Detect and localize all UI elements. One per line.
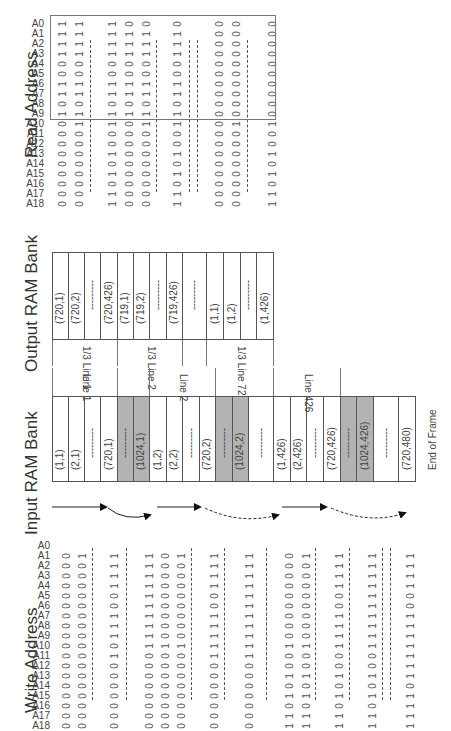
address-bit: 0 [245,721,255,731]
address-bit: 0 [62,641,72,651]
address-bit: 1 [335,721,345,731]
address-bit: 1 [145,561,155,571]
address-bit: 0 [177,651,187,661]
address-bit: 1 [368,671,378,681]
address-bit: 1 [245,631,255,641]
address-bit: 0 [245,681,255,691]
address-bit: 0 [335,601,345,611]
address-bit: 1 [335,571,345,581]
address-bit: 1 [406,571,416,581]
address-bit: 0 [62,711,72,721]
address-bit: 1 [368,551,378,561]
address-bit: 0 [285,651,295,661]
address-bit: 0 [210,681,220,691]
address-bit: 0 [335,591,345,601]
address-bit: 0 [302,591,312,601]
address-bit: 0 [368,701,378,711]
address-bit: 0 [177,601,187,611]
address-bit: 1 [210,581,220,591]
address-bit: 1 [406,691,416,701]
address-bit: 0 [145,681,155,691]
address-bit: 0 [302,581,312,591]
address-bit: 1 [406,641,416,651]
address-bit: 1 [177,641,187,651]
address-bit: 1 [368,591,378,601]
address-bit: 0 [302,561,312,571]
address-bit: 0 [110,701,120,711]
address-bit: 1 [368,571,378,581]
address-bit: 1 [285,671,295,681]
address-bit: 0 [62,571,72,581]
address-bit: 1 [110,651,120,661]
address-bit: 1 [368,621,378,631]
address-bit: 0 [302,571,312,581]
address-bit: 0 [78,581,88,591]
address-bit: 1 [406,561,416,571]
address-bit: 1 [245,611,255,621]
address-bit: 0 [62,611,72,621]
address-bit: 0 [78,591,88,601]
address-bit: 1 [210,611,220,621]
address-bit: 0 [285,571,295,581]
address-bit: 0 [78,641,88,651]
address-bit: 0 [285,611,295,621]
address-bit: 0 [285,631,295,641]
address-bit: 0 [110,681,120,691]
address-bit: 0 [78,631,88,641]
address-bit: 1 [210,621,220,631]
address-bit: 1 [406,701,416,711]
address-bit: 1 [110,611,120,621]
address-bit: 0 [245,671,255,681]
address-bit: 0 [161,611,171,621]
address-bit: 0 [110,691,120,701]
address-bit: 1 [245,651,255,661]
address-bit: 0 [62,651,72,661]
address-bit: 1 [302,711,312,721]
address-bit: 1 [110,621,120,631]
address-bit: 0 [302,621,312,631]
address-bit: 0 [245,691,255,701]
address-bit: 0 [78,671,88,681]
address-bit: 0 [177,671,187,681]
address-bit: 0 [161,701,171,711]
address-bit: 0 [110,661,120,671]
address-bit: 1 [145,601,155,611]
address-bit: 1 [285,721,295,731]
address-bit: 1 [245,591,255,601]
address-bit: 0 [285,681,295,691]
address-bit: 0 [285,561,295,571]
address-bit: 1 [368,721,378,731]
address-bit: 1 [210,631,220,641]
address-bit: 0 [62,721,72,731]
address-bit: 0 [145,701,155,711]
address-bit: 0 [78,571,88,581]
address-bit: 0 [285,661,295,671]
address-bit: 1 [335,621,345,631]
address-bit: 1 [406,621,416,631]
address-bit: 0 [177,691,187,701]
address-bit: 0 [177,721,187,731]
address-bit: 0 [161,631,171,641]
address-bit: 0 [302,601,312,611]
address-bit: 0 [62,591,72,601]
address-bit: 0 [110,601,120,611]
address-bit: 1 [245,571,255,581]
address-bit: 0 [302,681,312,691]
address-bit: 0 [161,591,171,601]
address-bit: 0 [161,551,171,561]
address-bit: 0 [78,691,88,701]
address-bit: 1 [406,551,416,561]
address-bit: 0 [145,671,155,681]
address-label: A18 [28,721,50,731]
address-bit: 0 [161,721,171,731]
address-bit: 0 [62,551,72,561]
address-bit: 1 [210,651,220,661]
address-bit: 0 [78,661,88,671]
address-bit: 0 [177,571,187,581]
address-bit: 0 [110,711,120,721]
address-bit: 0 [161,711,171,721]
address-bit: 0 [210,721,220,731]
address-bit: 0 [62,601,72,611]
address-bit: 0 [177,591,187,601]
address-bit: 0 [406,591,416,601]
